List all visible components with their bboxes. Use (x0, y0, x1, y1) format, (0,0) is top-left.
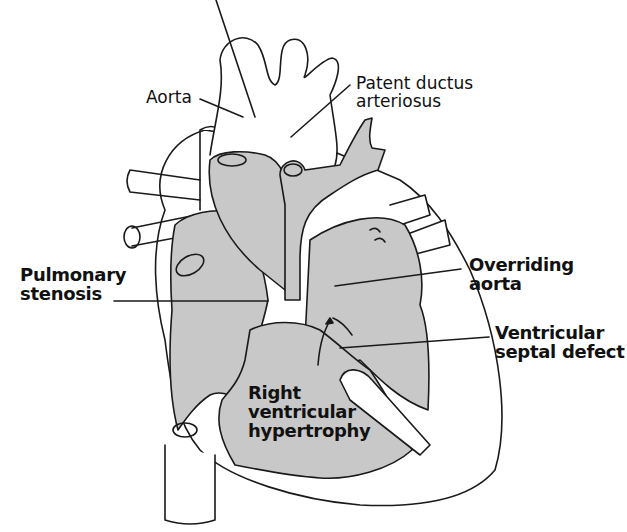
label-line: ventricular (248, 403, 371, 422)
left-vessel-2-opening (124, 226, 140, 248)
label-line: hypertrophy (248, 422, 371, 441)
inferior-vena-cava (165, 445, 215, 524)
label-line: septal defect (495, 343, 625, 362)
label-pulmonary-stenosis: Pulmonary stenosis (20, 266, 126, 304)
label-patent-ductus-arteriosus: Patent ductus arteriosus (356, 75, 473, 111)
label-right-ventricular-hypertrophy: Right ventricular hypertrophy (248, 384, 371, 441)
label-line: stenosis (20, 285, 126, 304)
aorta-arch (210, 38, 338, 165)
label-aorta: Aorta (146, 89, 192, 107)
label-line: aorta (469, 275, 574, 294)
label-line: arteriosus (356, 93, 473, 111)
label-overriding-aorta: Overriding aorta (469, 256, 574, 294)
label-line: Aorta (146, 89, 192, 107)
label-ventricular-septal-defect: Ventricular septal defect (495, 324, 625, 362)
